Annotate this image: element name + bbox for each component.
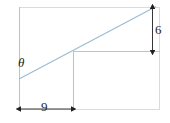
- figure-canvas: [0, 0, 170, 123]
- hypotenuse-line: [19, 7, 156, 80]
- angle-theta-label: θ: [18, 56, 24, 69]
- height-length-label: 6: [155, 23, 162, 36]
- geometry-figure: θ 9 6: [0, 0, 170, 123]
- figure-frame: [20, 8, 160, 110]
- base-length-label: 9: [41, 100, 48, 113]
